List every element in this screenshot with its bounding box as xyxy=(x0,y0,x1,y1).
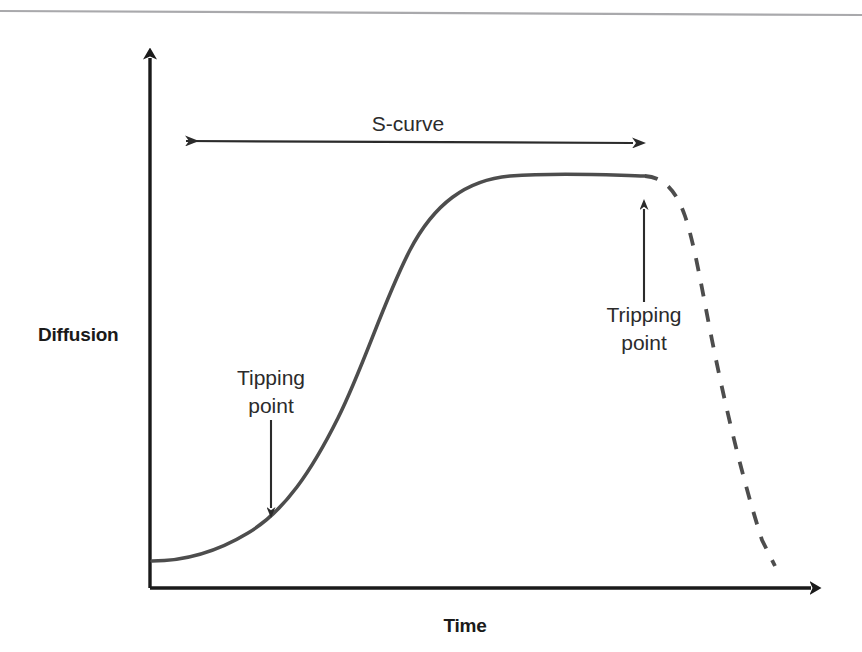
tipping-point-label-line1: Tipping xyxy=(237,366,305,389)
s-curve-span-label: S-curve xyxy=(372,112,444,135)
y-axis-title: Diffusion xyxy=(38,324,119,345)
figure-container: S-curve Tipping point Tripping point Dif… xyxy=(0,0,862,652)
tipping-point-label-line2: point xyxy=(248,394,294,417)
s-curve-diagram: S-curve Tipping point Tripping point Dif… xyxy=(0,0,862,652)
page-top-rule xyxy=(0,11,862,15)
tripping-decline-path xyxy=(645,176,775,566)
s-curve-path xyxy=(152,174,645,561)
tripping-point-label-line1: Tripping xyxy=(606,303,681,326)
s-curve-span-arrow xyxy=(186,141,633,143)
tripping-point-label-line2: point xyxy=(621,331,667,354)
x-axis-title: Time xyxy=(443,615,486,636)
